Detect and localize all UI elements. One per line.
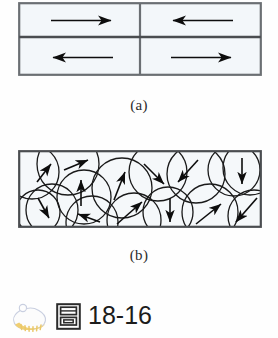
book-glyph-icon — [56, 303, 81, 330]
figure-number-label: 18-16 — [88, 303, 152, 330]
panel-a-svg — [18, 2, 262, 76]
figure-18-16: (a) — [0, 0, 278, 338]
panel-b-caption: (b) — [0, 247, 278, 264]
panel-b-random-grains — [18, 150, 262, 228]
highlighter-blob-icon — [9, 302, 49, 332]
panel-a-domain-grid — [18, 2, 262, 76]
bottom-caption-bar: 18-16 — [0, 295, 278, 338]
panel-a-caption: (a) — [0, 97, 278, 114]
panel-b-svg — [18, 150, 262, 228]
